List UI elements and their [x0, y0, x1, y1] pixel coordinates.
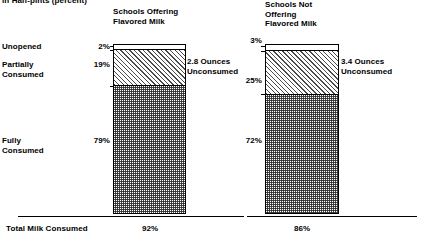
- bar-segment-left-partially-consumed: [114, 50, 185, 86]
- category-label-fully-consumed: Fully Consumed: [2, 136, 44, 155]
- bar-schools-not-offering-flavored-milk: [265, 44, 339, 214]
- bar-segment-right-unopened: [266, 44, 338, 51]
- annotation-right-line1: 3.4 Ounces: [341, 57, 424, 67]
- column-header-right-line3: Flavored Milk: [265, 19, 355, 29]
- axis-rule-left: [18, 216, 244, 217]
- annotation-right-line2: Unconsumed: [341, 67, 424, 77]
- category-label-fully-line2: Consumed: [2, 146, 44, 156]
- category-label-fully-line1: Fully: [2, 136, 44, 146]
- column-header-left-line2: Flavored Milk: [113, 17, 203, 27]
- chart-title: in Half-pints (percent): [2, 0, 87, 5]
- axis-rule-right: [247, 216, 417, 217]
- total-milk-consumed-value-right: 86%: [272, 224, 332, 233]
- annotation-left-unconsumed: 2.8 Ounces Unconsumed: [187, 57, 273, 77]
- annotation-right-unconsumed: 3.4 Ounces Unconsumed: [341, 57, 424, 77]
- value-label-left-unopened: 2%: [68, 42, 110, 51]
- category-label-partially-consumed: Partially Consumed: [2, 60, 44, 79]
- annotation-left-line1: 2.8 Ounces: [187, 57, 273, 67]
- chart-canvas: in Half-pints (percent) Schools Offering…: [0, 0, 424, 240]
- value-label-left-partially-consumed: 19%: [68, 60, 110, 69]
- total-milk-consumed-value-left: 92%: [120, 224, 180, 233]
- value-label-right-unopened: 3%: [222, 36, 262, 45]
- total-milk-consumed-label: Total Milk Consumed: [6, 224, 88, 233]
- bar-schools-offering-flavored-milk: [113, 44, 186, 214]
- bar-segment-right-fully-consumed: [266, 95, 338, 214]
- column-header-right: Schools Not Offering Flavored Milk: [265, 0, 355, 29]
- column-header-left-line1: Schools Offering: [113, 7, 203, 17]
- annotation-left-line2: Unconsumed: [187, 67, 273, 77]
- category-label-partial-line2: Consumed: [2, 70, 44, 80]
- value-label-right-fully-consumed: 72%: [222, 136, 262, 145]
- category-label-unopened: Unopened: [2, 42, 42, 52]
- column-header-right-line2: Offering: [265, 10, 355, 20]
- bar-segment-left-fully-consumed: [114, 86, 185, 214]
- value-label-right-partially-consumed: 25%: [222, 76, 262, 85]
- column-header-right-line1: Schools Not: [265, 0, 355, 10]
- column-header-left: Schools Offering Flavored Milk: [113, 7, 203, 26]
- category-label-partial-line1: Partially: [2, 60, 44, 70]
- category-label-unopened-line1: Unopened: [2, 42, 42, 52]
- bar-segment-right-partially-consumed: [266, 51, 338, 95]
- value-label-left-fully-consumed: 79%: [68, 136, 110, 145]
